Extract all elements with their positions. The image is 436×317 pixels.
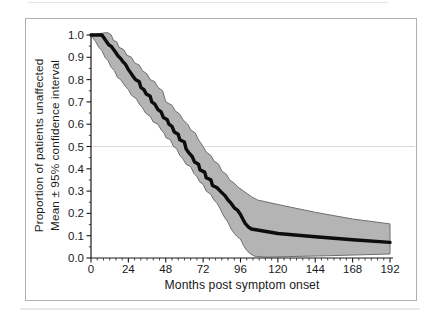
scanned-figure-page: 0244872961201441681920.00.10.20.30.40.50… xyxy=(0,0,436,317)
x-tick-label: 144 xyxy=(306,263,326,275)
confidence-band xyxy=(91,33,390,257)
km-survival-chart: 0244872961201441681920.00.10.20.30.40.50… xyxy=(0,0,436,317)
x-axis-title: Months post symptom onset xyxy=(91,278,393,292)
y-tick-label: 0.6 xyxy=(68,118,84,130)
y-tick-label: 0.5 xyxy=(68,141,84,153)
x-tick-label: 96 xyxy=(234,263,247,275)
y-tick-label: 0.9 xyxy=(68,51,84,63)
x-tick-label: 48 xyxy=(159,263,172,275)
page-rule-bottom xyxy=(20,308,420,310)
y-tick-label: 0.0 xyxy=(68,252,84,264)
y-tick-label: 0.3 xyxy=(68,185,84,197)
x-tick-label: 24 xyxy=(122,263,135,275)
y-tick-label: 0.8 xyxy=(68,74,84,86)
y-tick-label: 1.0 xyxy=(68,29,84,41)
y-tick-label: 0.4 xyxy=(68,163,85,175)
y-tick-label: 0.2 xyxy=(68,207,84,219)
x-tick-label: 168 xyxy=(343,263,362,275)
x-tick-label: 120 xyxy=(268,263,287,275)
x-tick-label: 0 xyxy=(88,263,94,275)
y-axis-title-line1: Proportion of patients unaffected xyxy=(33,26,46,266)
y-axis-title-line2: Mean ± 95% confidence interval xyxy=(49,26,62,266)
x-tick-label: 192 xyxy=(380,263,399,275)
x-tick-label: 72 xyxy=(197,263,210,275)
y-tick-label: 0.1 xyxy=(68,230,84,242)
y-tick-label: 0.7 xyxy=(68,96,84,108)
